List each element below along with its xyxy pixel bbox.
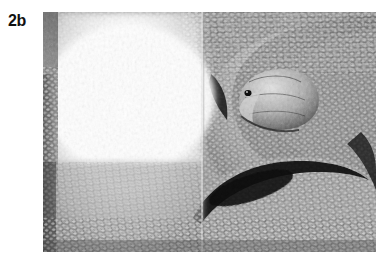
photograph-canvas bbox=[43, 12, 376, 252]
panel-label: 2b bbox=[8, 13, 26, 29]
film-grain bbox=[43, 12, 376, 252]
photo-content bbox=[43, 12, 376, 252]
snake-photograph bbox=[43, 12, 376, 252]
figure-page: 2b bbox=[0, 0, 391, 274]
